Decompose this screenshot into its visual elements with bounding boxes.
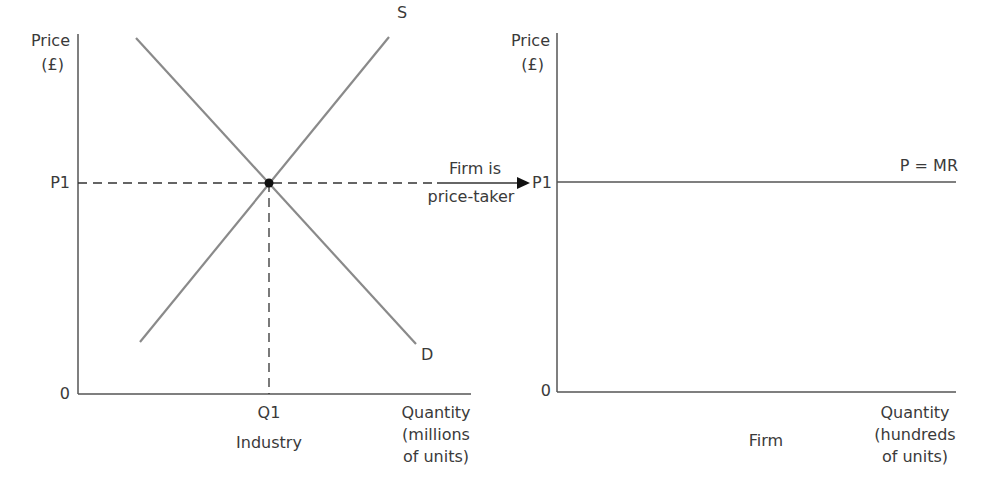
firm-x-label-3: of units) <box>860 446 970 468</box>
q1-label: Q1 <box>239 402 299 424</box>
demand-label: D <box>421 344 433 366</box>
industry-p1-label: P1 <box>20 172 70 194</box>
industry-x-label-3: of units) <box>386 446 486 468</box>
industry-x-label-1: Quantity <box>386 402 486 424</box>
industry-x-label-2: (millions <box>386 424 486 446</box>
industry-origin-label: 0 <box>20 383 70 405</box>
firm-x-label-2: (hundreds <box>860 424 970 446</box>
industry-title: Industry <box>219 432 319 454</box>
firm-x-label-1: Quantity <box>860 402 970 424</box>
equilibrium-point <box>265 179 274 188</box>
firm-origin-label: 0 <box>495 380 551 402</box>
firm-p1-label: P1 <box>532 172 552 194</box>
industry-y-label-unit: (£) <box>20 54 64 76</box>
firm-y-label-unit: (£) <box>495 54 544 76</box>
firm-title: Firm <box>726 430 806 452</box>
industry-y-label-price: Price <box>20 30 70 52</box>
firm-y-label-price: Price <box>495 30 550 52</box>
p-equals-mr-label: P = MR <box>850 155 958 177</box>
demand-curve <box>136 38 416 344</box>
supply-label: S <box>397 2 407 24</box>
annotation-line-2: price-taker <box>416 186 526 208</box>
annotation-line-1: Firm is <box>420 158 530 180</box>
